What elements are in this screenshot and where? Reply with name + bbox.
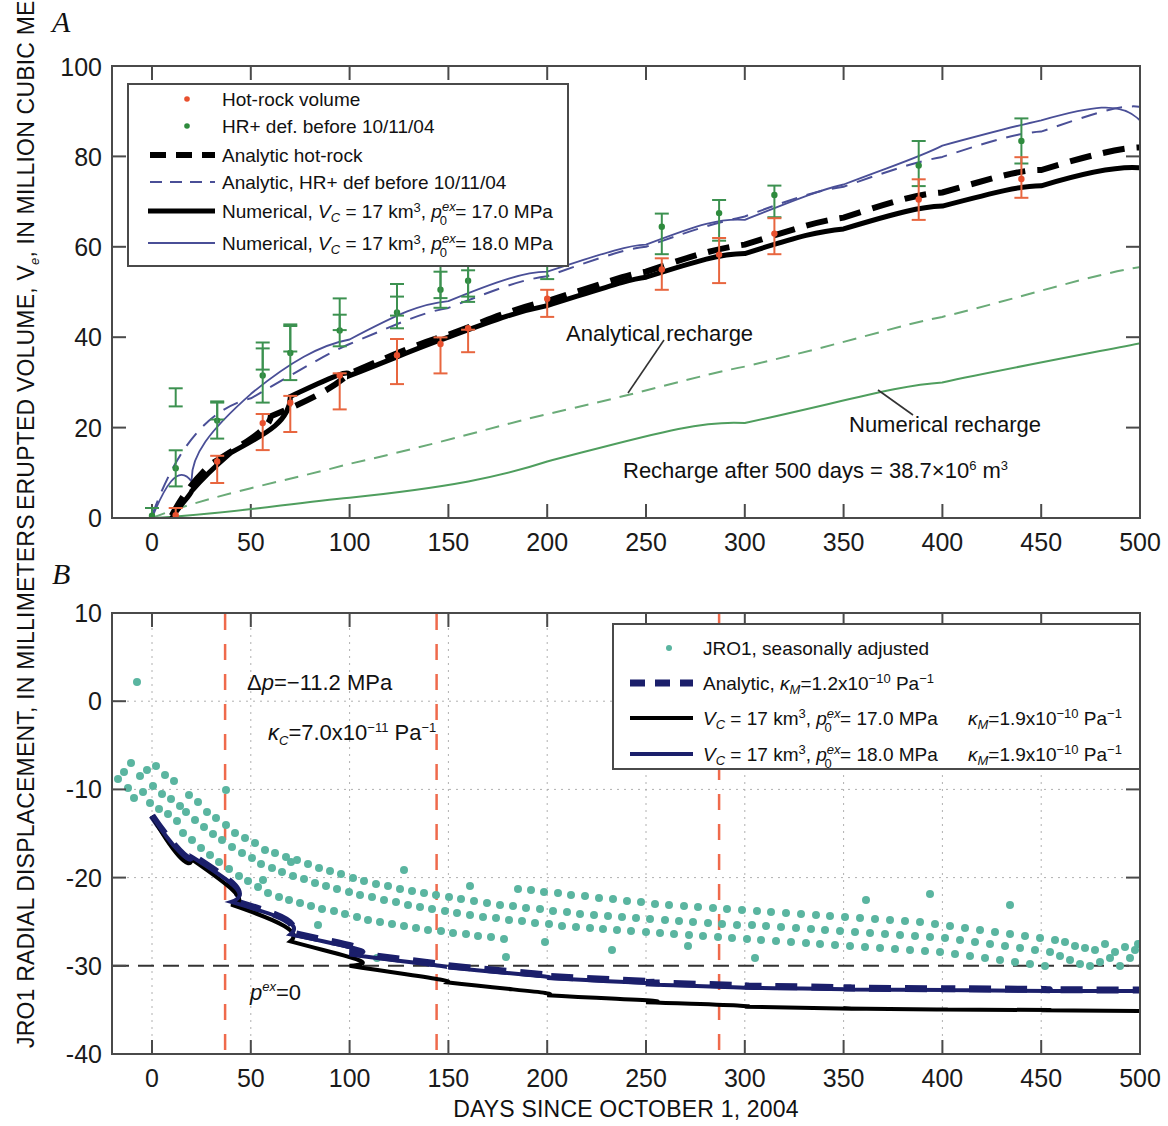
panel-a-ytick-20: 20 xyxy=(74,414,102,442)
annotation-recharge-total: Recharge after 500 days = 38.7×106 m3 xyxy=(623,458,1008,483)
figure-root: A 100 80 60 40 20 0 xyxy=(0,0,1168,1126)
panel-a-y-axis-title-main: ERUPTED VOLUME, V xyxy=(13,265,39,510)
panel-b-xtick-450: 450 xyxy=(1020,1064,1062,1092)
panel-a-xtick-250: 250 xyxy=(625,528,667,556)
annotation-numerical-recharge: Numerical recharge xyxy=(849,412,1041,437)
panel-a-ytick-0: 0 xyxy=(88,504,102,532)
panel-b-legend: JRO1, seasonally adjusted Analytic, κM=1… xyxy=(613,624,1140,771)
panel-b-xtick-200: 200 xyxy=(526,1064,568,1092)
panel-b-ytick-minus40: -40 xyxy=(66,1040,102,1068)
panel-b-xtick-350: 350 xyxy=(823,1064,865,1092)
panel-b-xtick-400: 400 xyxy=(922,1064,964,1092)
x-axis-title: DAYS SINCE OCTOBER 1, 2004 xyxy=(453,1096,799,1122)
panel-a-ytick-100: 100 xyxy=(60,53,102,81)
panel-b-ytick-10: 10 xyxy=(74,599,102,627)
legend-label-num17-kappa: κM=1.9x10−10 Pa−1 xyxy=(968,706,1122,732)
panel-b-xtick-250: 250 xyxy=(625,1064,667,1092)
panel-a-xtick-100: 100 xyxy=(329,528,371,556)
panel-a-xtick-50: 50 xyxy=(237,528,265,556)
annotation-pex-zero: pex=0 xyxy=(249,979,301,1005)
legend-label-analytic-kappa: Analytic, κM=1.2x10−10 Pa−1 xyxy=(703,671,934,697)
panel-b-ytick-minus30: -30 xyxy=(66,952,102,980)
panel-b-ytick-0: 0 xyxy=(88,687,102,715)
panel-b-letter: B xyxy=(52,557,70,590)
panel-b-y-axis-title-text: JRO1 RADIAL DISPLACEMENT, IN MILLIMETERS xyxy=(13,514,39,1048)
legend-label-analytic-hot-rock: Analytic hot-rock xyxy=(222,145,363,166)
legend-marker-hr-def xyxy=(184,123,190,129)
panel-a-xtick-150: 150 xyxy=(428,528,470,556)
panel-b-xtick-300: 300 xyxy=(724,1064,766,1092)
panel-a-legend: Hot-rock volume HR+ def. before 10/11/04… xyxy=(128,84,568,266)
panel-a-xtick-400: 400 xyxy=(922,528,964,556)
legend-label-hr-def: HR+ def. before 10/11/04 xyxy=(222,116,435,137)
panel-b-xtick-150: 150 xyxy=(428,1064,470,1092)
panel-a-xtick-200: 200 xyxy=(526,528,568,556)
panel-a-letter: A xyxy=(50,5,71,38)
panel-b-ytick-minus20: -20 xyxy=(66,864,102,892)
legend-marker-jro1 xyxy=(666,645,672,651)
panel-b-xtick-50: 50 xyxy=(237,1064,265,1092)
legend-label-jro1: JRO1, seasonally adjusted xyxy=(703,638,929,659)
panel-b-xtick-0: 0 xyxy=(145,1064,159,1092)
svg-text:ERUPTED VOLUME, Ve, IN MILLION: ERUPTED VOLUME, Ve, IN MILLION CUBIC MET… xyxy=(13,0,42,510)
legend-label-hot-rock-volume: Hot-rock volume xyxy=(222,89,360,110)
panel-a-ytick-60: 60 xyxy=(74,233,102,261)
panel-a-xtick-500: 500 xyxy=(1119,528,1161,556)
panel-b-xtick-100: 100 xyxy=(329,1064,371,1092)
panel-a-ytick-80: 80 xyxy=(74,143,102,171)
legend-marker-hot-rock-volume xyxy=(184,96,190,102)
legend-label-num18-kappa: κM=1.9x10−10 Pa−1 xyxy=(968,742,1122,768)
panel-a-xtick-450: 450 xyxy=(1020,528,1062,556)
panel-a-y-axis-title: ERUPTED VOLUME, Ve, IN MILLION CUBIC MET… xyxy=(13,0,42,510)
panel-a-y-axis-title-sub: e xyxy=(27,258,42,265)
panel-b-ytick-minus10: -10 xyxy=(66,775,102,803)
panel-a-ytick-40: 40 xyxy=(74,323,102,351)
annotation-kappa-c: κC=7.0x10−11 Pa−1 xyxy=(268,720,436,748)
legend-label-analytic-hr-def: Analytic, HR+ def before 10/11/04 xyxy=(222,172,507,193)
panel-b-xtick-500: 500 xyxy=(1119,1064,1161,1092)
panel-a-xtick-300: 300 xyxy=(724,528,766,556)
annotation-analytical-recharge: Analytical recharge xyxy=(566,321,753,346)
annotation-delta-p: Δp=−11.2 MPa xyxy=(247,670,393,695)
panel-b-y-axis-title: JRO1 RADIAL DISPLACEMENT, IN MILLIMETERS xyxy=(13,514,39,1048)
panel-a-y-axis-title-tail: , IN MILLION CUBIC METERS xyxy=(13,0,39,258)
panel-a-xtick-0: 0 xyxy=(145,528,159,556)
panel-a-xtick-350: 350 xyxy=(823,528,865,556)
